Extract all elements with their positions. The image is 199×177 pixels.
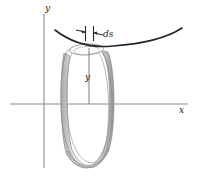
band-back-surface: [61, 53, 90, 168]
ds-dimension-marker: [76, 26, 103, 41]
revolved-band: [61, 43, 114, 168]
band-front-surface: [89, 50, 114, 167]
height-label-y: y: [85, 73, 90, 82]
band-inner-contour: [67, 47, 109, 163]
arc-length-label-ds: ds: [103, 30, 113, 39]
generating-curve: [55, 28, 182, 46]
figure-surface-of-revolution: y x y ds: [0, 0, 199, 177]
x-axis-label: x: [179, 106, 184, 115]
figure-canvas: [0, 0, 199, 177]
y-axis-label: y: [45, 4, 50, 13]
